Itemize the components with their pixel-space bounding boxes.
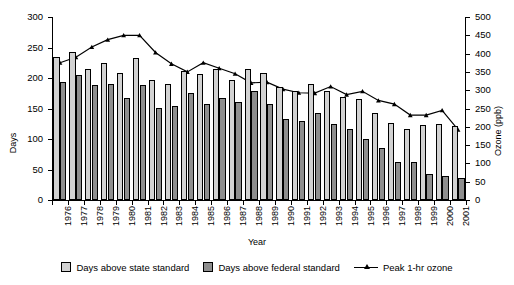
x-tick-label: 1988 [255, 206, 264, 226]
bar-federal-standard [60, 82, 66, 200]
bar-state-standard [229, 80, 235, 200]
y-tick-label-left: 250 [27, 43, 43, 53]
x-tick [100, 200, 101, 205]
bar-state-standard [436, 124, 442, 200]
bar-state-standard [260, 73, 266, 200]
bar-federal-standard [379, 148, 385, 200]
x-tick [211, 200, 212, 205]
bar-state-standard [308, 84, 314, 201]
x-tick [163, 200, 164, 205]
y-tick-label-right: 300 [475, 85, 491, 95]
legend-item-ozone: Peak 1-hr ozone [354, 262, 453, 273]
bar-state-standard [133, 58, 139, 200]
bar-state-standard [245, 69, 251, 200]
bar-federal-standard [442, 176, 448, 200]
y-tick-label-right: 500 [475, 12, 491, 22]
x-tick [402, 200, 403, 205]
y-tick-right [466, 145, 470, 146]
x-tick-label: 1999 [430, 206, 439, 226]
x-tick [84, 200, 85, 205]
x-tick-label: 1977 [80, 206, 89, 226]
bar-state-standard [452, 126, 458, 200]
x-tick [370, 200, 371, 205]
legend-item-state: Days above state standard [61, 262, 189, 273]
legend-line-marker-icon [354, 262, 378, 272]
x-tick [450, 200, 451, 205]
bar-state-standard [149, 80, 155, 200]
legend: Days above state standard Days above fed… [0, 258, 514, 276]
bar-state-standard [372, 113, 378, 200]
x-tick-label: 1980 [128, 206, 137, 226]
bar-federal-standard [92, 85, 98, 200]
x-tick-label: 1987 [239, 206, 248, 226]
bar-federal-standard [315, 113, 321, 200]
bar-state-standard [292, 91, 298, 200]
y-tick-label-right: 250 [475, 104, 491, 114]
bar-group [52, 17, 466, 200]
x-tick-label: 1993 [335, 206, 344, 226]
x-tick [148, 200, 149, 205]
y-tick-label-left: 50 [32, 165, 43, 175]
x-tick-label: 1997 [398, 206, 407, 226]
x-tick-label: 1989 [271, 206, 280, 226]
x-tick [323, 200, 324, 205]
bar-state-standard [69, 52, 75, 200]
x-tick [434, 200, 435, 205]
bar-federal-standard [188, 93, 194, 200]
y-tick-right [466, 72, 470, 73]
x-tick [227, 200, 228, 205]
bar-federal-standard [411, 162, 417, 200]
x-tick [291, 200, 292, 205]
y-tick-label-right: 200 [475, 122, 491, 132]
bar-federal-standard [76, 75, 82, 200]
y-tick-label-right: 400 [475, 49, 491, 59]
x-tick [386, 200, 387, 205]
y-tick-label-left: 0 [38, 195, 43, 205]
x-tick-label: 1984 [191, 206, 200, 226]
x-tick [466, 200, 467, 205]
y-tick-label-left: 150 [27, 104, 43, 114]
x-tick [339, 200, 340, 205]
bar-federal-standard [140, 85, 146, 200]
x-tick-label: 1978 [96, 206, 105, 226]
y-axis-right: 050100150200250300350400450500 [466, 17, 514, 200]
legend-item-federal: Days above federal standard [203, 262, 339, 273]
bar-federal-standard [235, 102, 241, 200]
x-tick-label: 2001 [462, 206, 471, 226]
bar-state-standard [101, 63, 107, 200]
x-tick [179, 200, 180, 205]
legend-label-ozone: Peak 1-hr ozone [383, 262, 453, 273]
bar-federal-standard [458, 178, 464, 200]
y-tick-right [466, 17, 470, 18]
bar-state-standard [276, 87, 282, 200]
x-tick-label: 1982 [160, 206, 169, 226]
bar-federal-standard [251, 91, 257, 200]
y-tick-label-right: 150 [475, 140, 491, 150]
x-tick [195, 200, 196, 205]
y-tick-right [466, 35, 470, 36]
x-tick-label: 1983 [175, 206, 184, 226]
bar-federal-standard [172, 106, 178, 200]
y-tick-label-right: 350 [475, 67, 491, 77]
x-tick-label: 1991 [303, 206, 312, 226]
x-tick-label: 1981 [144, 206, 153, 226]
bar-state-standard [213, 69, 219, 200]
x-tick [132, 200, 133, 205]
y-tick-label-left: 200 [27, 73, 43, 83]
x-tick [418, 200, 419, 205]
y-tick-label-right: 450 [475, 31, 491, 41]
y-tick-label-left: 300 [27, 12, 43, 22]
bar-state-standard [181, 71, 187, 200]
x-tick-label: 1995 [367, 206, 376, 226]
bar-federal-standard [299, 121, 305, 200]
legend-swatch-federal-icon [203, 262, 213, 272]
x-tick-label: 2000 [446, 206, 455, 226]
x-axis-title: Year [0, 237, 514, 247]
x-tick [355, 200, 356, 205]
y-tick-right [466, 54, 470, 55]
bar-federal-standard [395, 162, 401, 200]
bar-state-standard [53, 57, 59, 200]
bar-federal-standard [283, 119, 289, 200]
bar-federal-standard [219, 98, 225, 200]
bar-state-standard [324, 91, 330, 200]
